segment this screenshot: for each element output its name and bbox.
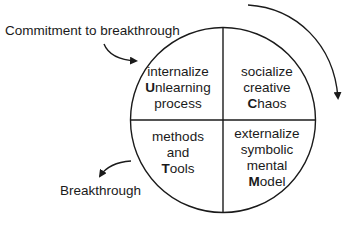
quadrant-text: Chaos — [222, 96, 312, 112]
quadrant-text: internalize — [133, 64, 223, 80]
quadrant-text: haos — [257, 96, 286, 111]
quadrant-text: nlearning — [155, 80, 211, 95]
quadrant-bottom-left: methods and Tools — [133, 129, 223, 177]
quadrant-text: Model — [222, 174, 312, 190]
quadrant-text: Tools — [133, 161, 223, 177]
quadrant-text: and — [133, 145, 223, 161]
quadrant-top-left: internalize Unlearning process — [133, 64, 223, 112]
quadrant-text: odel — [260, 174, 286, 189]
quadrant-text: creative — [222, 80, 312, 96]
quadrant-bottom-right: externalize symbolic mental Model — [222, 126, 312, 190]
quadrant-text: methods — [133, 129, 223, 145]
quadrant-text: process — [133, 96, 223, 112]
quadrant-text: mental — [222, 158, 312, 174]
key-letter: M — [249, 174, 260, 189]
entry-arrow-icon — [104, 44, 136, 61]
exit-arrow-icon — [100, 161, 131, 176]
quadrant-text: ools — [170, 161, 195, 176]
quadrant-top-right: socialize creative Chaos — [222, 64, 312, 112]
key-letter: U — [145, 80, 155, 95]
quadrant-text: Unlearning — [133, 80, 223, 96]
quadrant-text: externalize — [222, 126, 312, 142]
key-letter: C — [247, 96, 257, 111]
entry-label: Commitment to breakthrough — [5, 23, 180, 39]
quadrant-text: socialize — [222, 64, 312, 80]
key-letter: T — [161, 161, 169, 176]
quadrant-text: symbolic — [222, 142, 312, 158]
exit-label: Breakthrough — [60, 183, 141, 199]
